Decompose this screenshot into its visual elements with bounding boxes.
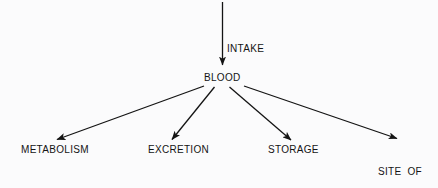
arrow-blood-to-storage — [230, 87, 292, 140]
node-storage: STORAGE — [268, 144, 319, 155]
arrow-blood-to-metabolism — [57, 86, 204, 140]
diagram-arrows-layer — [0, 0, 438, 188]
node-excretion: EXCRETION — [148, 144, 209, 155]
node-blood: BLOOD — [204, 72, 241, 83]
node-metabolism: METABOLISM — [21, 144, 89, 155]
node-site-of-action: SITE OF ACTION — [374, 144, 426, 188]
edge-label-intake: INTAKE — [227, 43, 264, 54]
node-site-of-action-line1: SITE OF — [374, 166, 426, 177]
arrow-blood-to-site-of-action — [244, 86, 397, 139]
flow-diagram: INTAKE BLOOD METABOLISM EXCRETION STORAG… — [0, 0, 438, 188]
